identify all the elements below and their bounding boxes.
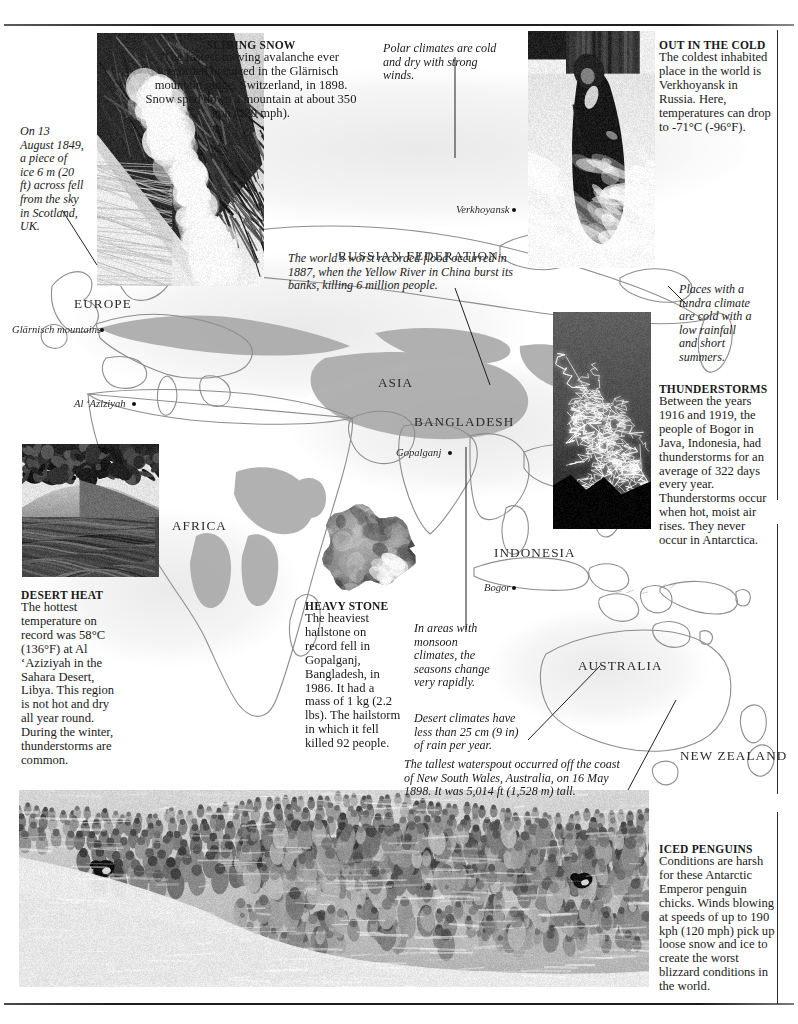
map-label-asia: ASIA <box>378 375 413 391</box>
caption-sliding-snow: SLIDING SNOW The fastest-moving avalanch… <box>140 39 362 121</box>
map-label-africa: AFRICA <box>172 518 227 534</box>
city-label-gopalganj: Gopalganj <box>396 447 441 458</box>
annotation-desert-rain: Desert climates have less than 25 cm (9 … <box>414 712 528 753</box>
caption-out-in-the-cold: OUT IN THE COLD The coldest inhabited pl… <box>659 39 771 134</box>
caption-thunderstorms-body: Between the years 1916 and 1919, the peo… <box>659 395 775 548</box>
caption-heavy-stone: HEAVY STONE The heaviest hailstone on re… <box>305 600 401 751</box>
city-dot-al-aziziyah <box>132 402 136 406</box>
caption-out-in-the-cold-body: The coldest inhabited place in the world… <box>659 51 771 134</box>
caption-iced-penguins: ICED PENGUINS Conditions are harsh for t… <box>659 843 775 994</box>
top-rule <box>4 24 794 26</box>
city-dot-gopalganj <box>448 451 452 455</box>
map-label-indonesia: INDONESIA <box>494 545 576 561</box>
city-label-verkhoyansk: Verkhoyansk <box>456 204 510 215</box>
map-label-europe: EUROPE <box>74 296 132 312</box>
annotation-waterspout: The tallest waterspout occurred off the … <box>404 758 626 799</box>
city-label-al-aziziyah: Al ‘Aziziyah <box>74 398 126 409</box>
caption-sliding-snow-body: The fastest-moving avalanche ever record… <box>140 51 362 121</box>
map-label-bangladesh: BANGLADESH <box>414 414 514 430</box>
caption-desert-heat: DESERT HEAT The hottest temperature on r… <box>21 589 123 768</box>
page-canvas: SLIDING SNOW The fastest-moving avalanch… <box>0 0 798 1024</box>
city-label-bogor: Bogor <box>484 582 510 593</box>
photo-lightning <box>553 312 651 529</box>
annotation-monsoon: In areas with monsoon climates, the seas… <box>414 622 492 690</box>
annotation-tundra: Places with a tundra climate are cold wi… <box>679 283 753 365</box>
caption-heavy-stone-body: The heaviest hailstone on record fell in… <box>305 612 401 751</box>
photo-penguins <box>19 790 649 987</box>
right-rule-lower <box>777 812 778 1004</box>
annotation-scotland-ice: On 13 August 1849, a piece of ice 6 m (2… <box>20 125 84 234</box>
city-dot-glarnisch <box>100 328 104 332</box>
caption-thunderstorms: THUNDERSTORMS Between the years 1916 and… <box>659 383 775 548</box>
caption-desert-heat-body: The hottest temperature on record was 58… <box>21 601 123 768</box>
caption-iced-penguins-body: Conditions are harsh for these Antarctic… <box>659 855 775 994</box>
map-label-australia: AUSTRALIA <box>578 658 663 674</box>
photo-desert <box>22 444 159 577</box>
map-label-new-zealand: NEW ZEALAND <box>680 748 787 764</box>
photo-hailstone <box>310 494 422 602</box>
map-label-russian-federation: RUSSIAN FEDERATION <box>338 248 499 264</box>
city-label-glarnisch: Glärnisch mountains <box>12 324 101 335</box>
annotation-polar-climates: Polar climates are cold and dry with str… <box>383 42 501 83</box>
bottom-rule <box>4 1003 794 1005</box>
photo-verkhoyansk <box>528 31 655 268</box>
city-dot-bogor <box>512 586 516 590</box>
city-dot-verkhoyansk <box>512 208 516 212</box>
